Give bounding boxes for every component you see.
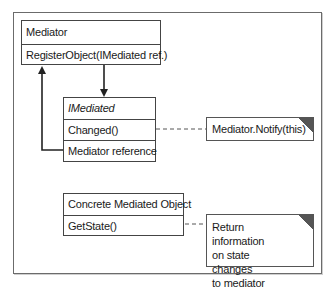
- method-get-state: GetState(): [64, 215, 183, 236]
- class-imediated-name: IMediated: [64, 98, 155, 119]
- note-state: Return information on state changes to m…: [206, 214, 314, 267]
- note-state-line-3: to mediator: [212, 276, 291, 290]
- class-imediated: IMediated Changed() Mediator reference: [63, 97, 156, 162]
- method-register-object: RegisterObject(IMediated ref.): [22, 44, 160, 65]
- class-mediator: Mediator RegisterObject(IMediated ref.): [21, 20, 161, 65]
- note-fold-icon: [298, 117, 314, 133]
- class-concrete-name: Concrete Mediated Object: [64, 194, 183, 215]
- class-mediator-name: Mediator: [22, 21, 160, 44]
- note-notify-text: Mediator.Notify(this): [212, 123, 306, 135]
- class-concrete-mediated-object: Concrete Mediated Object GetState(): [63, 193, 184, 236]
- field-mediator-reference: Mediator reference: [64, 140, 155, 161]
- note-notify: Mediator.Notify(this): [206, 117, 314, 141]
- method-changed: Changed(): [64, 119, 155, 140]
- note-state-line-1: Return information: [212, 220, 291, 248]
- note-fold-icon: [298, 214, 314, 230]
- note-state-line-2: on state changes: [212, 248, 291, 276]
